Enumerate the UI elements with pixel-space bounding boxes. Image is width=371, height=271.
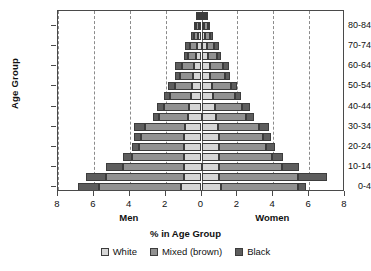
bar-segment-men: [175, 82, 192, 90]
legend-label: White: [113, 246, 137, 257]
bar-segment-women: [219, 153, 273, 161]
bar-segment-women: [214, 42, 218, 50]
bar-segment-women: [298, 173, 327, 181]
x-axis-title: % in Age Group: [0, 228, 371, 239]
bar-segment-men: [192, 82, 202, 90]
y-axis-title: Age Group: [9, 34, 20, 134]
bar-segment-men: [78, 183, 100, 191]
pyramid-row: [58, 32, 343, 40]
pyramid-row: [58, 42, 343, 50]
legend-item[interactable]: Black: [235, 246, 270, 257]
bar-segment-men: [194, 32, 198, 40]
legend-swatch-icon: [235, 248, 243, 256]
x-tick-mark: [165, 191, 166, 196]
pyramid-row: [58, 52, 343, 60]
bar-segment-women: [202, 143, 219, 151]
population-pyramid-chart: Age Group 0-410-1420-2430-3440-4450-5460…: [0, 0, 371, 271]
legend-swatch-icon: [150, 248, 158, 256]
bar-segment-men: [164, 103, 189, 111]
bar-segment-men: [134, 133, 141, 141]
x-tick-mark: [129, 191, 130, 196]
bar-segment-men: [184, 143, 201, 151]
pyramid-row: [58, 22, 343, 30]
bar-segment-men: [194, 62, 201, 70]
bar-segment-men: [141, 133, 184, 141]
bar-segment-women: [221, 183, 298, 191]
men-label: Men: [94, 212, 164, 223]
bar-segment-men: [132, 143, 139, 151]
x-tick-label: 8: [42, 198, 72, 209]
bar-segment-women: [219, 173, 299, 181]
bar-segment-men: [175, 72, 180, 80]
pyramid-row: [58, 92, 343, 100]
bar-segment-women: [212, 82, 231, 90]
bar-segment-women: [217, 52, 221, 60]
bar-segment-women: [215, 103, 242, 111]
y-tick-label: 70-74: [323, 40, 371, 50]
bar-segment-women: [208, 52, 217, 60]
pyramid-row: [58, 62, 343, 70]
bar-segment-men: [157, 103, 164, 111]
bar-segment-women: [202, 173, 219, 181]
bar-segment-men: [182, 62, 195, 70]
bar-segment-women: [202, 153, 219, 161]
bar-segment-women: [246, 113, 253, 121]
bar-segment-men: [190, 42, 197, 50]
bar-segment-women: [219, 133, 264, 141]
pyramid-row: [58, 133, 343, 141]
x-tick-label: 2: [150, 198, 180, 209]
bar-segment-women: [272, 153, 283, 161]
bar-segment-women: [202, 133, 219, 141]
bar-segment-men: [134, 123, 145, 131]
bar-segment-men: [184, 133, 201, 141]
y-tick-mark: [51, 166, 56, 167]
bar-segment-women: [206, 12, 208, 20]
y-tick-mark: [51, 186, 56, 187]
y-tick-mark: [51, 25, 56, 26]
bar-segment-women: [202, 103, 215, 111]
bar-segment-men: [194, 22, 196, 30]
y-tick-mark: [51, 65, 56, 66]
bar-segment-women: [231, 82, 237, 90]
x-tick-label: 4: [114, 198, 144, 209]
bar-segment-men: [153, 113, 159, 121]
bar-segment-men: [180, 72, 193, 80]
legend-item[interactable]: Mixed (brown): [150, 246, 222, 257]
x-tick-label: 4: [257, 198, 287, 209]
bar-segment-men: [185, 42, 189, 50]
bar-segment-women: [218, 123, 259, 131]
bar-segment-women: [259, 123, 269, 131]
bar-segment-men: [175, 62, 182, 70]
plot-area: [57, 10, 344, 191]
pyramid-row: [58, 12, 343, 20]
bar-segment-women: [235, 92, 241, 100]
x-tick-label: 6: [78, 198, 108, 209]
bar-segment-women: [202, 183, 222, 191]
pyramid-row: [58, 113, 343, 121]
y-tick-label: 60-64: [323, 60, 371, 70]
bar-segment-men: [184, 163, 202, 171]
legend-item[interactable]: White: [101, 246, 137, 257]
bar-segment-men: [191, 92, 202, 100]
bar-segment-women: [266, 143, 275, 151]
legend-swatch-icon: [101, 248, 109, 256]
x-tick-mark: [344, 191, 345, 196]
bar-segment-men: [184, 52, 188, 60]
x-tick-label: 6: [293, 198, 323, 209]
x-tick-mark: [272, 191, 273, 196]
bar-segment-men: [189, 103, 202, 111]
bar-segment-women: [263, 133, 271, 141]
bar-segment-men: [159, 113, 188, 121]
bar-segment-women: [210, 62, 223, 70]
y-tick-label: 20-24: [323, 141, 371, 151]
y-tick-label: 30-34: [323, 121, 371, 131]
x-tick-label: 0: [186, 198, 216, 209]
bar-segment-women: [202, 92, 214, 100]
pyramid-row: [58, 82, 343, 90]
bar-segment-men: [139, 143, 185, 151]
x-tick-mark: [308, 191, 309, 196]
bar-segment-men: [191, 32, 194, 40]
bar-segment-women: [242, 103, 250, 111]
bar-segment-men: [164, 92, 170, 100]
bar-segment-women: [223, 62, 229, 70]
